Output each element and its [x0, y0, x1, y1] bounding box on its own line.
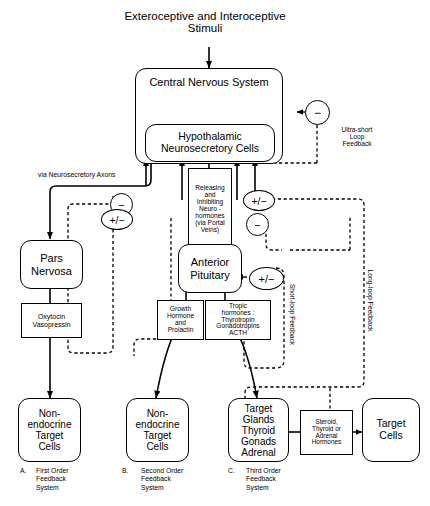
plusminus-glyph: +/− [251, 195, 266, 207]
box-tropic-hormones: Tropic hormones : Thyrotropin Gonadotrop… [205, 300, 271, 340]
box-anterior-pituitary: Anterior Pituitary [178, 244, 242, 293]
box-target-cells-label: Target Cells [376, 418, 405, 441]
diagram-canvas: Exteroceptive and Interoceptive Stimuli … [0, 0, 430, 506]
sign-minus-short-loop: − [246, 213, 269, 236]
minus-glyph: − [254, 219, 260, 231]
caption-text-c: Third Order Feedback System [246, 467, 318, 492]
box-releasing-label: Releasing and Inhibiting Neuro - hormone… [195, 185, 225, 233]
sign-minus-ultrashort: − [305, 100, 330, 125]
caption-letter-a: A. [20, 467, 26, 474]
box-steroid-thyroid-adrenal-hormones: Steroid, Thyroid or Adrenal Hormones [300, 410, 353, 455]
box-nonendocrine-target-cells-a: Non- endocrine Target Cells [18, 398, 81, 462]
box-oxytocin-label: Oxytocin Vasopressin [32, 313, 70, 328]
sign-plusminus-long-loop: +/− [243, 190, 275, 211]
box-steroid-hormones-label: Steroid, Thyroid or Adrenal Hormones [312, 419, 341, 446]
box-pars-nervosa-label: Pars Nervosa [31, 252, 72, 276]
box-nonendocrine-a-label: Non- endocrine Target Cells [28, 408, 72, 452]
box-pars-nervosa: Pars Nervosa [20, 240, 83, 289]
box-oxytocin-vasopressin: Oxytocin Vasopressin [21, 303, 82, 338]
box-hypothalamic-label: Hypothalamic Neurosecretory Cells [161, 131, 259, 154]
minus-glyph: − [314, 106, 321, 120]
label-ultra-short-loop-feedback: Ultra-short Loop Feedback [324, 126, 390, 147]
arrow-gh-to-nonendocrine-b [156, 338, 172, 398]
box-target-glands-label: Target Glands Thyroid Gonads Adrenal [241, 403, 276, 458]
label-long-loop-feedback: Long-loop Feedback [367, 251, 374, 351]
box-cns-label: Central Nervous System [149, 76, 268, 88]
box-target-glands: Target Glands Thyroid Gonads Adrenal [228, 398, 289, 462]
caption-text-b: Second Order Feedback System [141, 467, 219, 492]
box-target-cells: Target Cells [362, 398, 420, 462]
plusminus-glyph: +/− [259, 273, 275, 285]
box-growth-hormone-prolactin: Growth Hormone and Prolactin [157, 300, 204, 340]
caption-letter-b: B. [122, 467, 128, 474]
box-hypothalamic-neurosecretory-cells: Hypothalamic Neurosecretory Cells [145, 124, 275, 162]
page-title: Exteroceptive and Interoceptive Stimuli [55, 10, 355, 35]
box-releasing-inhibiting-hormones: Releasing and Inhibiting Neuro - hormone… [188, 168, 232, 251]
box-growth-hormone-label: Growth Hormone and Prolactin [167, 306, 194, 334]
box-anterior-pituitary-label: Anterior Pituitary [190, 256, 230, 280]
label-via-neurosecretory-axons: via Neurosecretory Axons [38, 171, 198, 178]
label-short-loop-feedback: Short-loop Feedback [289, 270, 296, 360]
path-minus-to-ap-area [266, 228, 282, 250]
sign-plusminus-anterior-pituitary: +/− [249, 267, 284, 290]
sign-plusminus-first-order: +/− [101, 209, 133, 230]
caption-text-a: First Order Feedback System [36, 467, 106, 492]
box-nonendocrine-target-cells-b: Non- endocrine Target Cells [126, 398, 189, 462]
box-tropic-hormones-label: Tropic hormones : Thyrotropin Gonadotrop… [216, 303, 259, 338]
plusminus-glyph: +/− [109, 214, 124, 226]
caption-letter-c: C. [228, 467, 235, 474]
box-nonendocrine-b-label: Non- endocrine Target Cells [136, 408, 180, 452]
